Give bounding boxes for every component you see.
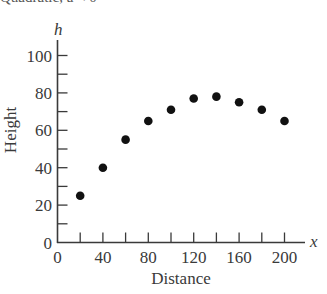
data-point (189, 94, 198, 103)
data-point (235, 98, 244, 107)
ticks (58, 56, 285, 243)
data-point (212, 92, 221, 101)
y-tick-label: 20 (35, 196, 52, 215)
y-tick-label: 0 (44, 234, 53, 253)
x-axis-title: Distance (151, 269, 210, 288)
data-point (144, 117, 153, 126)
axes (57, 40, 305, 243)
x-tick-label: 40 (94, 248, 111, 267)
y-axis-title: Height (1, 107, 20, 154)
y-tick-label: 100 (27, 47, 53, 66)
x-tick-label: 200 (272, 248, 298, 267)
data-point (99, 163, 108, 172)
data-point (258, 105, 267, 114)
x-tick-label: 0 (53, 248, 62, 267)
tick-labels: 02040608010004080120160200 (27, 47, 298, 268)
x-tick-label: 160 (226, 248, 252, 267)
y-tick-label: 60 (35, 121, 52, 140)
data-point (167, 105, 176, 114)
x-tick-label: 80 (140, 248, 157, 267)
data-point (76, 191, 85, 200)
scatter-chart: 02040608010004080120160200 Distance Heig… (0, 0, 327, 294)
data-points (76, 92, 289, 200)
y-tick-label: 80 (35, 84, 52, 103)
x-tick-label: 120 (181, 248, 207, 267)
y-tick-label: 40 (35, 159, 52, 178)
y-variable-label: h (54, 20, 63, 39)
data-point (280, 117, 289, 126)
x-variable-label: x (309, 232, 318, 251)
data-point (121, 135, 130, 144)
